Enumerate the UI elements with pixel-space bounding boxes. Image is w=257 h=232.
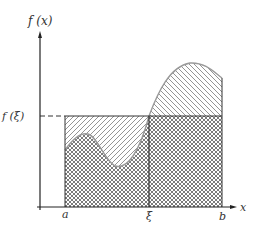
f-xi-label: f (ξ): [1, 110, 24, 123]
y-axis-arrow-icon: [38, 31, 42, 38]
y-axis-label: f (x): [27, 14, 53, 28]
x-axis-arrow-icon: [230, 205, 237, 209]
tick-label-a: a: [62, 208, 69, 221]
tick-label-b: b: [219, 210, 226, 223]
x-axis-label: x: [240, 201, 247, 214]
mean-value-diagram: f (x) x f (ξ) a ξ b: [0, 0, 257, 232]
tick-label-xi: ξ: [146, 210, 153, 223]
